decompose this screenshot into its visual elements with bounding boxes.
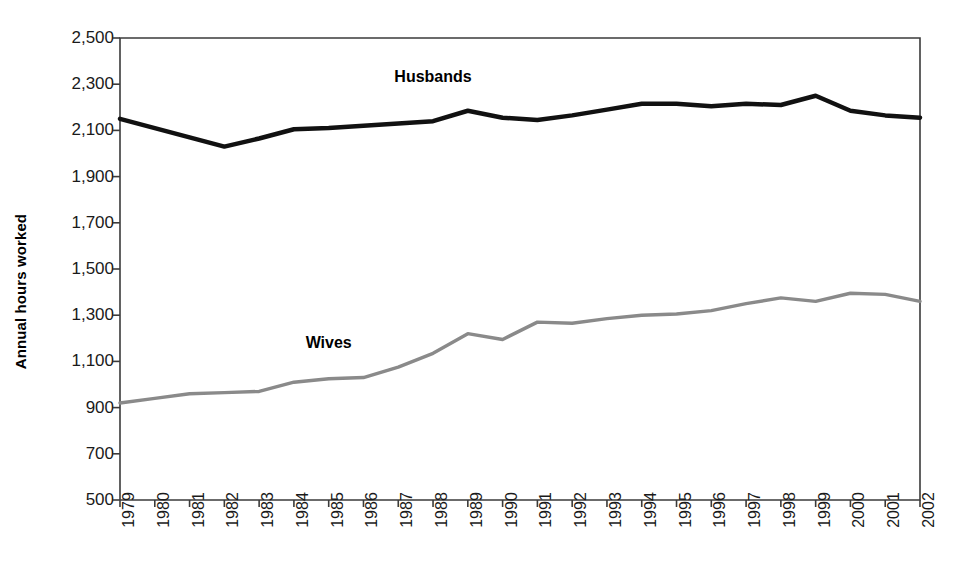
x-axis-tick-label: 1985: [329, 492, 347, 528]
x-axis-tick-label: 1994: [642, 492, 660, 528]
x-axis-tick-labels: 1979198019811982198319841985198619871988…: [0, 508, 954, 583]
x-axis-tick-label: 1988: [433, 492, 451, 528]
x-axis-tick-label: 1991: [537, 492, 555, 528]
x-axis-tick-label: 1979: [120, 492, 138, 528]
line-chart: Annual hours worked 2,5002,3002,1001,900…: [0, 0, 954, 583]
x-axis-tick-label: 1998: [781, 492, 799, 528]
x-axis-tick-label: 1989: [468, 492, 486, 528]
x-axis-tick-label: 1996: [711, 492, 729, 528]
series-line-wives: [120, 293, 920, 403]
x-axis-tick-label: 1999: [816, 492, 834, 528]
x-axis-tick-label: 1987: [398, 492, 416, 528]
series-label-husbands: Husbands: [394, 68, 471, 86]
x-axis-tick-label: 1984: [294, 492, 312, 528]
x-axis-tick-label: 2001: [885, 492, 903, 528]
x-axis-tick-label: 2000: [850, 492, 868, 528]
series-line-husbands: [120, 96, 920, 147]
x-axis-tick-label: 1983: [259, 492, 277, 528]
x-axis-tick-label: 1997: [746, 492, 764, 528]
x-axis-tick-label: 1993: [607, 492, 625, 528]
x-axis-tick-label: 1990: [503, 492, 521, 528]
x-axis-tick-label: 1986: [363, 492, 381, 528]
x-axis-tick-label: 2002: [920, 492, 938, 528]
plot-frame: [120, 38, 920, 500]
x-axis-tick-label: 1981: [190, 492, 208, 528]
x-axis-tick-label: 1992: [572, 492, 590, 528]
x-axis-tick-label: 1980: [155, 492, 173, 528]
x-axis-tick-label: 1982: [224, 492, 242, 528]
series-label-wives: Wives: [306, 334, 352, 352]
x-axis-tick-label: 1995: [677, 492, 695, 528]
